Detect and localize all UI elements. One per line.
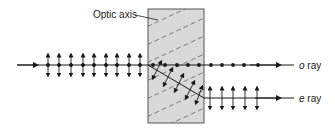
e-ray-label: e ray (299, 93, 321, 104)
o-ray-label: o ray (299, 60, 321, 71)
incident-polarization-markers (46, 55, 141, 75)
birefringence-diagram: Optic axis o ray (0, 0, 335, 131)
optic-axis-label: Optic axis (93, 9, 137, 20)
incident-ray (17, 55, 148, 75)
